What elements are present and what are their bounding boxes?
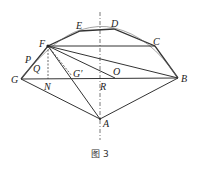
- label-A: A: [102, 118, 110, 129]
- label-F: F: [38, 38, 46, 49]
- label-B: B: [181, 73, 187, 84]
- label-Q: Q: [33, 63, 41, 74]
- segment-BA: [100, 78, 178, 119]
- label-G-prime: G′: [73, 68, 83, 79]
- label-G: G: [11, 74, 18, 85]
- label-C: C: [153, 36, 160, 47]
- point-F: [46, 44, 49, 47]
- label-R: R: [99, 81, 106, 92]
- arc-curve: [22, 26, 177, 77]
- geometry-figure: E D F C P Q G N G′ O R B A 图 3: [0, 0, 197, 169]
- chord-GB: [21, 78, 178, 79]
- label-D: D: [110, 18, 119, 29]
- label-O: O: [113, 66, 120, 77]
- point-A: [99, 118, 101, 120]
- label-N: N: [43, 81, 52, 92]
- figure-caption: 图 3: [91, 149, 109, 159]
- label-P: P: [24, 54, 31, 65]
- label-E: E: [75, 20, 82, 31]
- segment-GA: [21, 79, 100, 119]
